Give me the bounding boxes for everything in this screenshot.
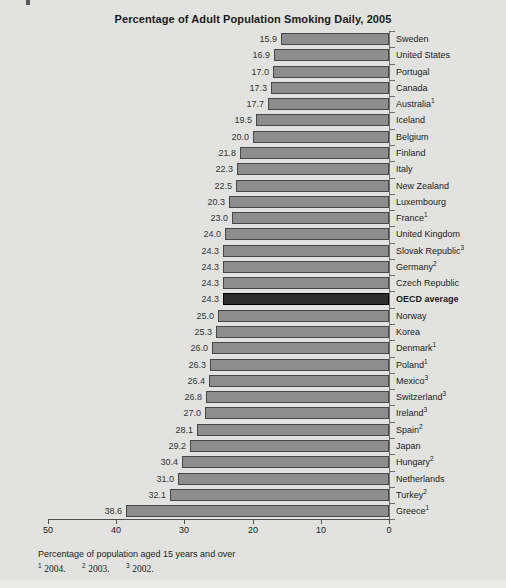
country-label: Sweden [396,33,429,45]
page-edge [0,580,506,588]
category-tick [389,454,395,455]
footnote-marker-1: 1 [38,562,42,569]
country-bar [205,407,389,419]
value-axis-tick [116,519,117,524]
country-label: Finland [396,147,426,159]
country-bar [268,98,389,110]
country-label: Luxembourg [396,196,446,208]
category-tick [389,340,395,341]
bar-value-label: 17.3 [0,82,267,94]
country-bar [223,245,389,257]
country-bar [237,163,389,175]
country-bar [232,212,389,224]
category-tick [389,422,395,423]
bar-value-label: 25.3 [0,326,212,338]
category-tick [389,373,395,374]
bar-value-label: 30.4 [0,456,178,468]
bar-value-label: 17.0 [0,66,269,78]
country-label: Norway [396,310,427,322]
oecd-average-label: OECD average [396,293,459,305]
country-label: Netherlands [396,473,445,485]
country-label: New Zealand [396,180,449,192]
category-tick [389,112,395,113]
bar-value-label: 16.9 [0,49,270,61]
category-tick [389,64,395,65]
country-bar [206,391,389,403]
country-bar [209,375,389,387]
bar-value-label: 20.0 [0,131,249,143]
category-tick [389,324,395,325]
value-axis-tick-label: 50 [37,525,59,535]
category-tick [389,80,395,81]
category-tick [389,47,395,48]
value-axis-tick-label: 40 [105,525,127,535]
value-axis-tick [184,519,185,524]
value-axis-tick [321,519,322,524]
bar-value-label: 24.3 [0,245,219,257]
country-bar [190,440,389,452]
country-label: United Kingdom [396,228,460,240]
country-label: Portugal [396,66,430,78]
category-tick [389,308,395,309]
country-label: United States [396,49,450,61]
bar-value-label: 17.7 [0,98,264,110]
bar-value-label: 15.9 [0,33,277,45]
axis-caption: Percentage of population aged 15 years a… [38,549,235,559]
country-bar [212,342,389,354]
country-label: Turkey2 [396,489,427,501]
bar-value-label: 38.6 [0,505,122,517]
bar-plot-area: 15.9Sweden16.9United States17.0Portugal1… [0,0,506,545]
category-tick [389,210,395,211]
category-tick [389,503,395,504]
country-bar [281,33,389,45]
country-bar [236,180,389,192]
bar-value-label: 24.3 [0,293,219,305]
category-tick [389,487,395,488]
country-bar [240,147,389,159]
country-label: Greece1 [396,505,429,517]
category-tick [389,178,395,179]
bar-value-label: 32.1 [0,489,166,501]
bar-value-label: 26.4 [0,375,205,387]
footnote-marker-2: 2 [82,562,86,569]
country-label: Poland1 [396,359,428,371]
value-axis-line [48,519,390,520]
category-tick [389,291,395,292]
bar-value-label: 29.2 [0,440,186,452]
footnote-year-2002: 3 2002. [126,564,154,574]
country-label: Germany2 [396,261,437,273]
country-bar [253,131,389,143]
country-bar [170,489,389,501]
country-label: Hungary2 [396,456,434,468]
country-bar [256,114,389,126]
category-tick [389,275,395,276]
footnote-years: 1 2004. 2 2003. 3 2002. [38,564,168,574]
category-tick [389,405,395,406]
category-tick [389,145,395,146]
country-label: Switzerland3 [396,391,446,403]
category-tick [389,194,395,195]
bar-value-label: 24.3 [0,261,219,273]
value-axis-tick [253,519,254,524]
country-bar [210,359,389,371]
country-label: Spain2 [396,424,423,436]
country-bar [218,310,389,322]
category-tick [389,389,395,390]
country-label: Japan [396,440,421,452]
country-bar [178,473,389,485]
country-label: Ireland3 [396,407,427,419]
footnote-year-2004: 1 2004. [38,564,66,574]
country-bar [229,196,389,208]
country-bar [182,456,389,468]
category-tick [389,129,395,130]
country-bar [223,277,389,289]
country-label: Iceland [396,114,425,126]
value-axis-tick-label: 0 [378,525,400,535]
bar-value-label: 26.3 [0,359,206,371]
country-label: Czech Republic [396,277,459,289]
bar-value-label: 22.3 [0,163,233,175]
country-label: Denmark1 [396,342,436,354]
value-axis-tick [389,519,390,524]
country-label: Canada [396,82,428,94]
category-tick [389,259,395,260]
